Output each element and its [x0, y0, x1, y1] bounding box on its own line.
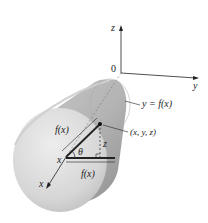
point-marker [98, 122, 102, 126]
diagram-canvas: z y 0 x y = f(x) (x, y, z) f(x) f(x) z θ… [0, 0, 208, 223]
z-axis-arrow-icon [119, 25, 123, 31]
curve-label: y = f(x) [141, 98, 173, 110]
horizontal-radius-label: f(x) [81, 168, 96, 180]
x-axis-label: x [38, 178, 44, 189]
z-axis-label: z [110, 22, 115, 33]
surface-of-revolution-diagram: z y 0 x y = f(x) (x, y, z) f(x) f(x) z θ… [0, 0, 208, 223]
y-axis-label: y [192, 80, 198, 91]
angle-label: θ [78, 146, 83, 157]
slant-radius-label: f(x) [55, 124, 70, 136]
y-axis [121, 73, 196, 78]
height-label: z [102, 138, 107, 149]
x-position-label: x [56, 154, 62, 165]
origin-label: 0 [111, 63, 116, 74]
point-label: (x, y, z) [130, 127, 156, 137]
